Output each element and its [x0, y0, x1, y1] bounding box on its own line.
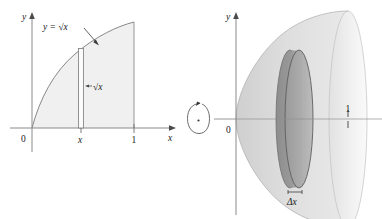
- figure-canvas: y x 0 x 1 y = √x √x: [0, 0, 382, 219]
- left-tick-label-one: 1: [132, 135, 137, 145]
- revolve-about-x-axis: [188, 102, 210, 134]
- left-x-axis-arrow: [169, 125, 176, 131]
- left-x-axis-label: x: [167, 133, 173, 143]
- left-y-axis-arrow: [29, 12, 35, 19]
- representative-strip: [79, 49, 84, 129]
- rotation-arc: [188, 104, 210, 134]
- right-tick-label-one: 1: [346, 104, 351, 114]
- right-y-axis-arrow: [233, 12, 239, 19]
- disk-thickness-label: Δx: [286, 197, 298, 207]
- equation-label-arrow-line: [84, 28, 96, 42]
- left-tick-label-x: x: [77, 135, 83, 145]
- rotation-axis-dot: [197, 119, 199, 121]
- left-panel: y x 0 x 1 y = √x √x: [10, 12, 176, 152]
- left-y-axis-label: y: [21, 12, 27, 22]
- right-y-axis-label: y: [225, 12, 231, 22]
- calculus-disk-method-figure: y x 0 x 1 y = √x √x: [0, 0, 382, 219]
- right-panel: y 0 1 Δx: [214, 11, 382, 219]
- right-origin-label: 0: [226, 125, 231, 135]
- strip-height-label: √x: [93, 82, 103, 92]
- left-origin-label: 0: [21, 134, 26, 144]
- curve-equation-label: y = √x: [42, 22, 69, 32]
